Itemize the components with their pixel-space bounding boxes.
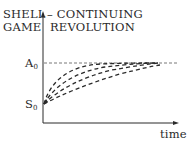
x-axis-arrow-icon bbox=[173, 121, 179, 125]
y-axis-arrow-icon bbox=[41, 11, 45, 17]
diagram-canvas bbox=[0, 0, 192, 151]
curve-4 bbox=[44, 65, 160, 104]
curve-2 bbox=[44, 63, 158, 104]
curve-3 bbox=[44, 63, 160, 104]
